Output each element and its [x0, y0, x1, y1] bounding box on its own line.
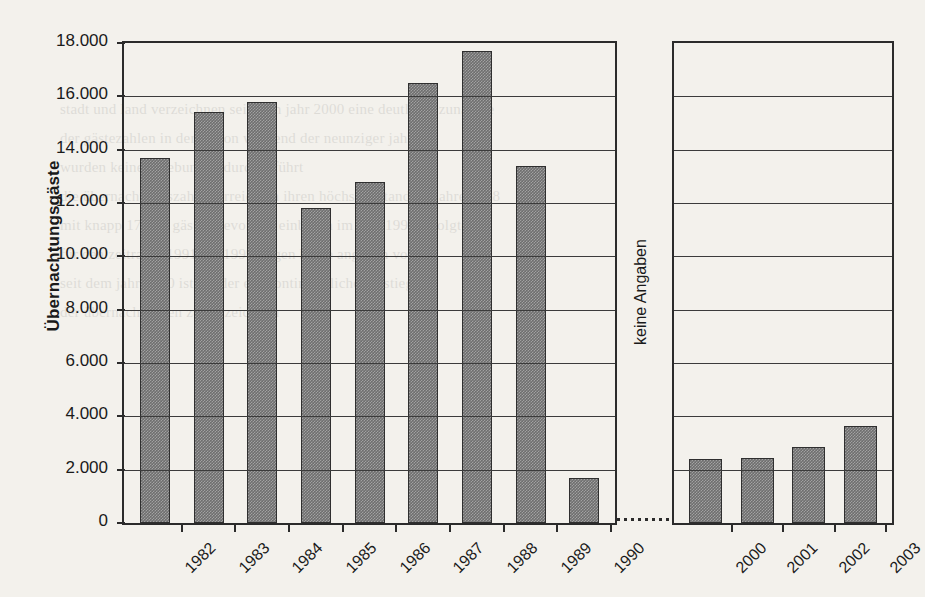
axis-break-annotation: keine Angaben	[632, 175, 650, 345]
y-axis-tick-label: 14.000	[8, 138, 108, 158]
y-axis-tick	[117, 42, 125, 44]
x-axis-labels-primary: 198219831984198519861987198819891990	[124, 523, 615, 593]
y-axis-tick-label: 8.000	[8, 298, 108, 318]
gridline	[124, 363, 615, 364]
gridline	[124, 150, 615, 151]
x-axis-label: 1984	[289, 539, 327, 577]
x-axis-label: 1989	[557, 539, 595, 577]
x-axis-label: 1983	[235, 539, 273, 577]
axis-break-dots-icon	[615, 518, 672, 521]
x-axis-label: 2000	[732, 539, 770, 577]
x-axis-label: 2001	[784, 539, 822, 577]
y-axis-tick-label: 12.000	[8, 191, 108, 211]
y-axis-tick-label: 6.000	[8, 351, 108, 371]
bar	[844, 426, 877, 523]
gridline	[674, 416, 892, 417]
x-axis-label: 1985	[342, 539, 380, 577]
gridline	[674, 256, 892, 257]
y-axis-tick-label: 18.000	[8, 31, 108, 51]
bar	[462, 51, 492, 523]
x-axis-label: 1982	[181, 539, 219, 577]
y-axis-tick-label: 0	[8, 511, 108, 531]
y-axis-tick-labels: 02.0004.0006.0008.00010.00012.00014.0001…	[0, 0, 108, 597]
gridline	[124, 96, 615, 97]
bar	[792, 447, 825, 523]
bar-series-primary	[124, 43, 615, 523]
y-axis-tick-label: 16.000	[8, 84, 108, 104]
x-axis-label: 1987	[450, 539, 488, 577]
gridline	[674, 150, 892, 151]
x-axis-label: 1990	[611, 539, 649, 577]
x-axis-label: 2002	[835, 539, 873, 577]
x-axis-label: 1986	[396, 539, 434, 577]
bar	[355, 182, 385, 523]
gridline	[124, 203, 615, 204]
gridline	[124, 416, 615, 417]
gridline	[674, 363, 892, 364]
bar	[741, 458, 774, 523]
gridline	[124, 310, 615, 311]
bar	[247, 102, 277, 523]
bar-series-secondary	[674, 43, 892, 523]
gridline	[674, 470, 892, 471]
plot-area-secondary: 2000200120022003	[672, 41, 894, 525]
plot-area-primary: 198219831984198519861987198819891990	[122, 41, 617, 525]
y-axis-tick-label: 2.000	[8, 458, 108, 478]
bar	[140, 158, 170, 523]
y-axis-tick-label: 4.000	[8, 404, 108, 424]
bar	[689, 459, 722, 523]
gridline	[124, 470, 615, 471]
gridline	[124, 256, 615, 257]
bar	[569, 478, 599, 523]
bar	[194, 112, 224, 523]
x-axis-labels-secondary: 2000200120022003	[674, 523, 892, 593]
gridline	[674, 203, 892, 204]
gridline	[674, 96, 892, 97]
gridline	[674, 310, 892, 311]
y-axis-tick	[117, 522, 125, 524]
y-axis-tick-label: 10.000	[8, 244, 108, 264]
x-axis-label: 1988	[503, 539, 541, 577]
x-axis-label: 2003	[887, 539, 925, 577]
